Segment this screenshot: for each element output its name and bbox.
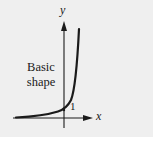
diagram-panel: y x 1 Basic shape <box>0 0 153 137</box>
caption-line-1: Basic <box>22 60 60 75</box>
y-intercept-point <box>63 109 65 111</box>
y-axis-arrow-icon <box>61 21 67 31</box>
y-axis-label: y <box>60 4 65 16</box>
caption-line-2: shape <box>22 75 60 90</box>
basic-shape-caption: Basic shape <box>22 60 60 90</box>
intercept-label: 1 <box>70 101 76 112</box>
x-axis-label: x <box>96 110 101 122</box>
x-axis-arrow-icon <box>83 115 93 121</box>
